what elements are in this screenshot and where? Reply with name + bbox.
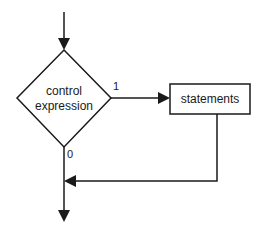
decision-diamond: control expression	[17, 50, 111, 147]
true-branch-label: 1	[113, 80, 119, 92]
entry-arrow	[58, 12, 70, 50]
return-path-arrow	[64, 114, 217, 187]
true-branch-arrow	[111, 92, 170, 104]
decision-label-line2: expression	[35, 99, 93, 113]
process-box: statements	[170, 84, 250, 114]
false-branch-label: 0	[67, 148, 73, 160]
flowchart-canvas: control expression 1 statements 0	[0, 0, 265, 230]
process-label: statements	[181, 92, 240, 106]
decision-label-line1: control	[46, 84, 82, 98]
